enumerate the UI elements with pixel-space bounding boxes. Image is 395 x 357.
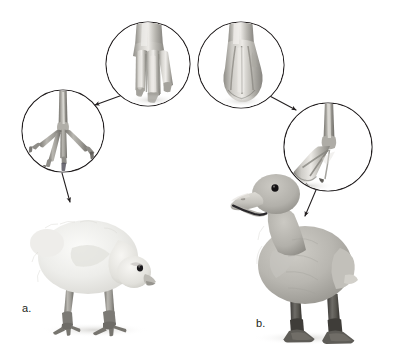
chick-toe-closeup-image [106, 18, 190, 106]
callout-duckling-toe-closeup[interactable] [198, 16, 284, 108]
connector-chick-foot-to-chick [62, 173, 70, 202]
chick-photo [30, 220, 156, 337]
figure-artwork [0, 0, 395, 357]
callout-duckling-whole-foot[interactable] [284, 100, 372, 192]
duckling-photo [231, 174, 359, 345]
duckling-toe-closeup-image [198, 16, 284, 108]
callout-chick-whole-foot[interactable] [22, 88, 104, 173]
callout-chick-toe-closeup[interactable] [106, 18, 190, 106]
figure-container: a. b. [0, 0, 395, 357]
panel-label-b: b. [256, 318, 266, 329]
connector-duck-foot-to-duckling [305, 190, 316, 216]
panel-label-a: a. [22, 303, 32, 314]
